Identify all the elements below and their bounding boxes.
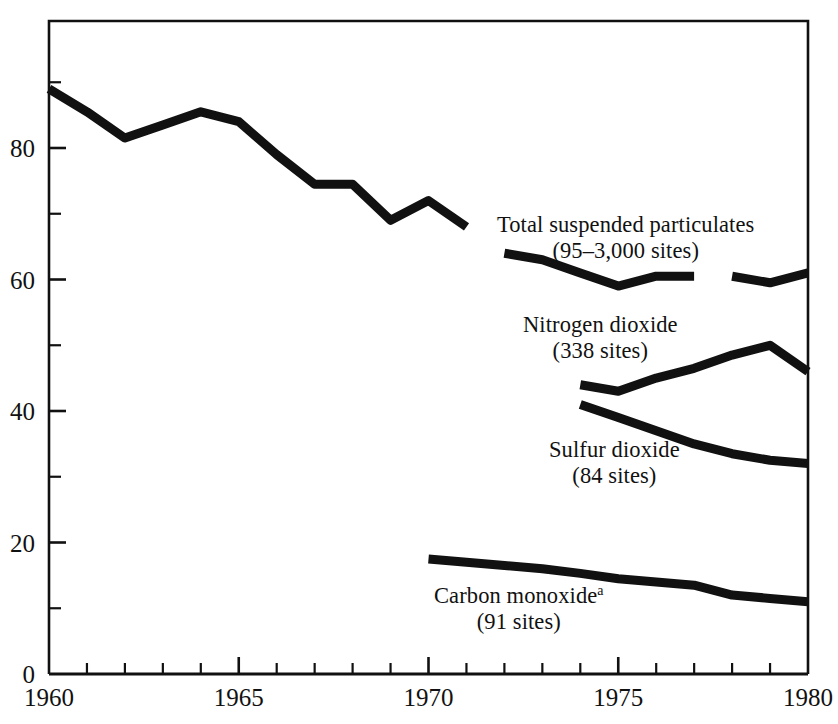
series-label-tsp-line1: Total suspended particulates: [497, 212, 754, 237]
figure-container: 80604020019601965197019751980 Total susp…: [0, 0, 838, 724]
y-tick-label-80: 80: [10, 135, 35, 162]
x-tick-label-1970: 1970: [404, 684, 454, 711]
chart-canvas: 80604020019601965197019751980: [0, 0, 838, 724]
plot-frame: [49, 21, 808, 674]
y-tick-label-40: 40: [10, 398, 35, 425]
series-label-no2-line1: Nitrogen dioxide: [523, 312, 678, 337]
series-label-co-footnote-marker: a: [597, 583, 603, 598]
series-label-co-line2: (91 sites): [434, 609, 604, 635]
series-label-tsp-line2: (95–3,000 sites): [497, 238, 754, 264]
series-line-0-segment-0: [49, 89, 467, 227]
y-tick-label-20: 20: [10, 530, 35, 557]
series-label-no2-line2: (338 sites): [523, 338, 678, 364]
series-label-carbon-monoxide: Carbon monoxidea (91 sites): [434, 583, 604, 635]
y-tick-label-60: 60: [10, 267, 35, 294]
data-series-lines: [49, 89, 808, 602]
x-tick-label-1960: 1960: [24, 684, 74, 711]
series-label-so2-line1: Sulfur dioxide: [549, 437, 680, 462]
x-tick-label-1965: 1965: [214, 684, 264, 711]
series-label-nitrogen-dioxide: Nitrogen dioxide (338 sites): [523, 312, 678, 364]
series-line-0-segment-2: [732, 273, 808, 283]
series-label-co-line1: Carbon monoxide: [434, 583, 597, 608]
series-label-so2-line2: (84 sites): [549, 463, 680, 489]
series-label-sulfur-dioxide: Sulfur dioxide (84 sites): [549, 437, 680, 489]
x-tick-label-1980: 1980: [783, 684, 833, 711]
series-label-total-suspended-particulates: Total suspended particulates (95–3,000 s…: [497, 212, 754, 264]
x-tick-label-1975: 1975: [593, 684, 643, 711]
